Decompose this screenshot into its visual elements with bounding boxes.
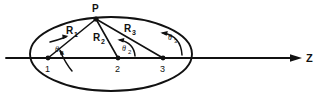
diagram-canvas: P Z 1 2 3 R 1 R 2 R 3 θ 1 θ 2 θ 3 [0,0,329,104]
label-angle-theta1-base: θ [55,45,59,54]
z-axis-arrowhead [290,54,302,62]
label-angle-theta3-base: θ [168,33,172,42]
label-angle-theta3: θ 3 [168,33,178,44]
point-p-marker [93,16,98,21]
geometry-diagram: P Z 1 2 3 R 1 R 2 R 3 θ 1 θ 2 θ 3 [0,0,329,104]
label-ray-r1-base: R [66,25,74,36]
angle-arc-theta3 [163,33,182,55]
angle-arc-theta2-arrowhead [117,38,124,43]
label-point-1: 1 [45,64,50,74]
label-angle-theta2-base: θ [122,44,126,53]
label-angle-theta1-subscript: 1 [61,50,65,56]
angle-arc-theta3-arrowhead [160,31,167,36]
label-ray-r1-subscript: 1 [74,31,78,38]
label-ray-r3-base: R [124,23,132,34]
point-2-marker [116,56,121,61]
label-ray-r2-base: R [93,32,101,43]
point-1-marker [46,56,51,61]
label-ray-r3-subscript: 3 [132,29,136,36]
label-point-2: 2 [115,64,120,74]
label-point-p: P [92,3,99,14]
label-z-axis: Z [306,52,313,64]
point-3-marker [161,56,166,61]
label-angle-theta2-subscript: 2 [128,49,132,55]
label-ray-r2: R 2 [93,32,105,45]
label-ray-r2-subscript: 2 [101,38,105,45]
label-ray-r3: R 3 [124,23,136,36]
label-point-3: 3 [160,64,165,74]
